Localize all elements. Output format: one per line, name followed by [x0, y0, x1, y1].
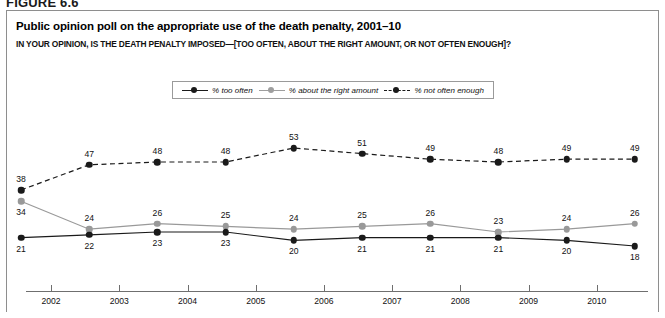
series-line--too-often	[21, 232, 635, 246]
x-axis-tick	[51, 285, 52, 291]
x-axis-label: 2004	[178, 296, 197, 306]
x-axis-tick	[324, 285, 325, 291]
x-axis-label: 2009	[519, 296, 538, 306]
x-axis-tick	[529, 285, 530, 291]
x-axis-tick	[119, 285, 120, 291]
x-axis-label: 2002	[42, 296, 61, 306]
x-axis-tick	[460, 285, 461, 291]
x-axis-label: 2010	[587, 296, 606, 306]
x-axis-tick	[597, 285, 598, 291]
x-axis-label: 2007	[383, 296, 402, 306]
x-axis-label: 2008	[451, 296, 470, 306]
figure-page: FIGURE 6.6 Public opinion poll on the ap…	[0, 0, 665, 318]
series-line--about-the-right-amount	[21, 201, 635, 232]
x-axis-label: 2003	[110, 296, 129, 306]
chart-plot-lines	[0, 0, 665, 318]
x-axis-tick	[188, 285, 189, 291]
x-axis-label: 2006	[314, 296, 333, 306]
x-axis-line	[26, 291, 648, 292]
series-line--not-often-enough	[21, 148, 635, 190]
x-axis-tick	[256, 285, 257, 291]
x-axis-tick	[392, 285, 393, 291]
x-axis-label: 2005	[246, 296, 265, 306]
